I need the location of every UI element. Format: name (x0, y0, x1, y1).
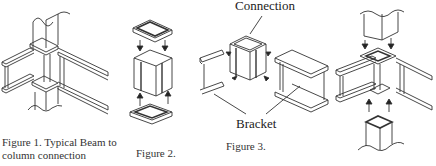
figure-3-caption: Figure 3. (226, 140, 266, 152)
connection-label: Connection (235, 0, 295, 14)
bracket-label: Bracket (236, 116, 276, 132)
figure-4-drawing (336, 10, 432, 151)
figure-2-caption: Figure 2. (136, 147, 176, 159)
figure-1-drawing (2, 12, 108, 114)
figure-1-caption-line2: column connection (2, 149, 86, 161)
figure-3-drawing (200, 16, 328, 114)
figure-1-caption-line1: Figure 1. Typical Beam to (2, 136, 117, 148)
figure-2-drawing (130, 20, 172, 124)
